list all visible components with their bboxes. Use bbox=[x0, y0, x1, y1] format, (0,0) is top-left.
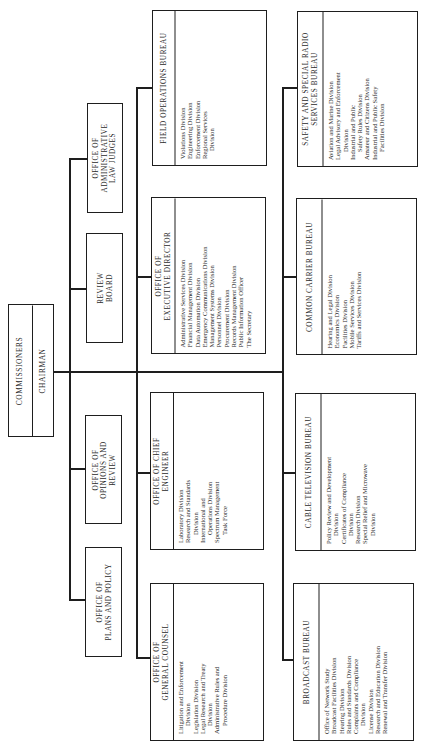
review-board-box: REVIEW BOARD bbox=[86, 233, 123, 343]
field-operations-divisions: Violations Division Engineering Division… bbox=[175, 11, 214, 165]
connector-offices-trunk bbox=[136, 87, 138, 659]
connector-staff-trunk bbox=[69, 158, 71, 601]
safety-radio-box: SAFETY AND SPECIAL RADIO SERVICES BUREAU… bbox=[297, 11, 418, 167]
connector-field-operations bbox=[136, 87, 152, 89]
general-counsel-title: OFFICE OF GENERAL COUNSEL bbox=[151, 584, 174, 740]
chief-engineer-divisions: Laboratory Division Research and Standar… bbox=[174, 393, 228, 549]
general-counsel-divisions: Litigation and Enforcement Division Legi… bbox=[174, 584, 228, 740]
review-board-title: REVIEW BOARD bbox=[87, 234, 122, 342]
connector-safety-radio bbox=[282, 87, 297, 89]
connector-admin-law-judges bbox=[69, 158, 87, 160]
common-carrier-title: COMMON CARRIER BUREAU bbox=[297, 199, 322, 354]
connector-general-counsel bbox=[136, 657, 151, 659]
chief-engineer-box: OFFICE OF CHIEF ENGINEER Laboratory Divi… bbox=[150, 392, 264, 550]
safety-radio-divisions: Aviation and Marine Division Legal Advis… bbox=[323, 12, 384, 166]
common-carrier-divisions: Hearing and Legal Division Economics Div… bbox=[322, 199, 361, 354]
opinions-review-box: OFFICE OF OPINIONS AND REVIEW bbox=[85, 415, 122, 524]
broadcast-title: BROADCAST BUREAU bbox=[294, 584, 319, 740]
executive-director-title: OFFICE OF EXECUTIVE DIRECTOR bbox=[152, 198, 175, 353]
connector-cable-television bbox=[282, 472, 295, 474]
connector-plans-policy bbox=[69, 599, 86, 601]
executive-director-box: OFFICE OF EXECUTIVE DIRECTOR Administrat… bbox=[151, 197, 266, 354]
general-counsel-box: OFFICE OF GENERAL COUNSEL Litigation and… bbox=[150, 583, 264, 741]
commissioners-label: COMMISSIONERS bbox=[9, 305, 33, 436]
connector-common-carrier bbox=[282, 276, 297, 278]
plans-policy-title: OFFICE OF PLANS AND POLICY bbox=[86, 548, 121, 656]
connector-chief-engineer bbox=[136, 472, 151, 474]
connector-bureaus-trunk bbox=[282, 87, 284, 660]
broadcast-box: BROADCAST BUREAU Office of Network Study… bbox=[293, 583, 414, 741]
admin-law-judges-title: OFFICE OF ADMINISTRATIVE LAW JUDGES bbox=[88, 104, 122, 212]
connector-executive-director bbox=[136, 276, 152, 278]
chairman-label: CHAIRMAN bbox=[33, 305, 53, 436]
broadcast-divisions: Office of Network Study Broadcast Facili… bbox=[319, 584, 388, 740]
field-operations-title: FIELD OPERATIONS BUREAU bbox=[153, 11, 175, 165]
cable-television-box: CABLE TELEVISION BUREAU Policy Review an… bbox=[295, 393, 416, 551]
executive-director-divisions: Administrative Services Division Financi… bbox=[175, 198, 251, 353]
chief-engineer-title: OFFICE OF CHIEF ENGINEER bbox=[151, 393, 174, 549]
cable-television-title: CABLE TELEVISION BUREAU bbox=[296, 394, 321, 550]
admin-law-judges-box: OFFICE OF ADMINISTRATIVE LAW JUDGES bbox=[87, 103, 123, 213]
common-carrier-box: COMMON CARRIER BUREAU Hearing and Legal … bbox=[296, 198, 417, 355]
cable-television-divisions: Policy Review and Development Division C… bbox=[321, 394, 375, 550]
connector-review-board bbox=[69, 288, 87, 290]
connector-chairman-trunk bbox=[53, 371, 283, 373]
commissioners-box: COMMISSIONERS CHAIRMAN bbox=[8, 304, 54, 437]
opinions-review-title: OFFICE OF OPINIONS AND REVIEW bbox=[86, 416, 121, 523]
connector-opinions-review bbox=[69, 468, 86, 470]
plans-policy-box: OFFICE OF PLANS AND POLICY bbox=[85, 547, 122, 657]
field-operations-box: FIELD OPERATIONS BUREAU Violations Divis… bbox=[152, 10, 267, 166]
safety-radio-title: SAFETY AND SPECIAL RADIO SERVICES BUREAU bbox=[298, 12, 323, 166]
